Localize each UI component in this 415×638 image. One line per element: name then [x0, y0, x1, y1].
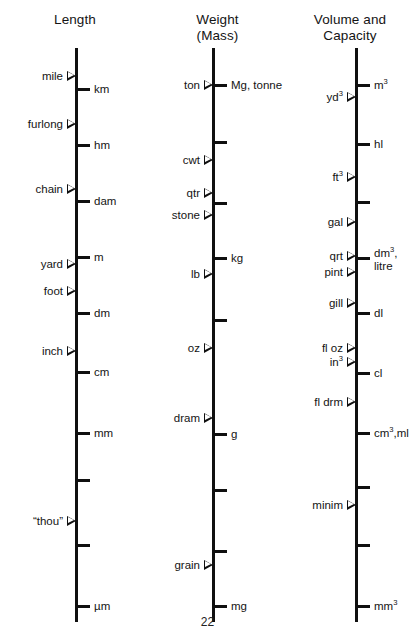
pointer-triangle-icon — [204, 413, 213, 423]
pointer-triangle-icon — [347, 92, 356, 102]
metric-unit-label: mg — [231, 600, 247, 613]
imperial-unit-marker: qrt — [0, 249, 356, 263]
imperial-unit-marker: pint — [0, 265, 356, 279]
metric-tick — [357, 312, 370, 315]
imperial-unit-label: gill — [329, 297, 347, 309]
imperial-unit-marker: fl drm — [0, 395, 356, 409]
imperial-unit-marker: gal — [0, 215, 356, 229]
metric-tick — [357, 432, 370, 435]
metric-tick — [214, 433, 227, 436]
metric-tick — [77, 605, 90, 608]
metric-unit-label: mm3 — [374, 600, 397, 613]
metric-tick — [357, 605, 370, 608]
column-title-length: Length — [0, 12, 150, 28]
imperial-unit-label: cwt — [183, 154, 204, 166]
pointer-triangle-icon — [347, 298, 356, 308]
imperial-unit-marker: cwt — [0, 153, 213, 167]
imperial-unit-label: “thou” — [33, 515, 67, 527]
metric-tick — [357, 84, 370, 87]
pointer-triangle-icon — [204, 80, 213, 90]
imperial-unit-label: fl drm — [314, 396, 347, 408]
metric-tick — [214, 141, 227, 144]
metric-tick — [357, 486, 370, 489]
metric-tick — [214, 550, 227, 553]
metric-unit-label: hm — [94, 139, 110, 152]
column-title-weight: Weight (Mass) — [145, 12, 290, 43]
imperial-unit-marker: “thou” — [0, 514, 76, 528]
metric-tick — [357, 201, 370, 204]
metric-unit-label: cl — [374, 367, 382, 380]
pointer-triangle-icon — [347, 397, 356, 407]
pointer-triangle-icon — [204, 560, 213, 570]
imperial-unit-marker: minim — [0, 498, 356, 512]
imperial-unit-marker: qtr — [0, 186, 213, 200]
imperial-unit-label: dram — [174, 412, 204, 424]
scale-axis-line — [212, 48, 215, 622]
imperial-unit-label: gal — [328, 216, 347, 228]
imperial-unit-marker: yd3 — [0, 90, 356, 104]
metric-tick — [357, 143, 370, 146]
pointer-triangle-icon — [347, 357, 356, 367]
imperial-unit-label: fl oz — [322, 342, 347, 354]
metric-unit-label: hl — [374, 138, 383, 151]
metric-tick — [214, 489, 227, 492]
metric-unit-label: m3 — [374, 79, 388, 92]
metric-tick — [357, 257, 370, 260]
imperial-unit-label: minim — [312, 499, 347, 511]
pointer-triangle-icon — [347, 172, 356, 182]
pointer-triangle-icon — [204, 188, 213, 198]
column-title-volume: Volume and Capacity — [285, 12, 415, 43]
scale-axis-line — [75, 48, 78, 622]
imperial-unit-label: in3 — [330, 356, 347, 368]
metric-tick — [77, 432, 90, 435]
imperial-unit-marker: dram — [0, 411, 213, 425]
pointer-triangle-icon — [347, 343, 356, 353]
metric-tick — [77, 312, 90, 315]
pointer-triangle-icon — [67, 516, 76, 526]
imperial-unit-marker: fl oz — [0, 341, 356, 355]
metric-tick — [77, 200, 90, 203]
pointer-triangle-icon — [347, 251, 356, 261]
metric-unit-label: dm3,litre — [374, 247, 397, 273]
metric-tick — [77, 144, 90, 147]
imperial-unit-label: grain — [174, 559, 204, 571]
pointer-triangle-icon — [67, 286, 76, 296]
pointer-triangle-icon — [204, 155, 213, 165]
metric-tick — [214, 202, 227, 205]
metric-tick — [357, 544, 370, 547]
scale-axis-line — [355, 48, 358, 622]
metric-tick — [357, 372, 370, 375]
metric-unit-label: cm3,ml — [374, 427, 409, 440]
imperial-unit-label: pint — [324, 266, 347, 278]
metric-tick — [214, 84, 227, 87]
imperial-unit-label: qrt — [330, 250, 347, 262]
imperial-unit-marker: in3 — [0, 355, 356, 369]
pointer-triangle-icon — [347, 267, 356, 277]
imperial-unit-marker: grain — [0, 558, 213, 572]
pointer-triangle-icon — [347, 217, 356, 227]
imperial-unit-label: qtr — [187, 187, 204, 199]
metric-tick — [214, 605, 227, 608]
metric-tick — [214, 319, 227, 322]
metric-unit-label: mm — [94, 427, 113, 440]
imperial-unit-marker: ft3 — [0, 170, 356, 184]
imperial-unit-marker: gill — [0, 296, 356, 310]
metric-tick — [77, 479, 90, 482]
metric-unit-label: µm — [94, 600, 110, 613]
figure-page: Length Weight (Mass) Volume and Capacity… — [0, 0, 415, 638]
imperial-unit-label: yd3 — [327, 91, 347, 103]
metric-unit-label: dl — [374, 307, 383, 320]
pointer-triangle-icon — [67, 119, 76, 129]
imperial-unit-label: furlong — [28, 118, 67, 130]
imperial-unit-label: ft3 — [332, 171, 347, 183]
metric-unit-label: g — [231, 428, 237, 441]
pointer-triangle-icon — [347, 500, 356, 510]
metric-tick — [77, 371, 90, 374]
imperial-unit-marker: furlong — [0, 117, 76, 131]
page-number: 22 — [0, 615, 415, 629]
metric-tick — [77, 544, 90, 547]
